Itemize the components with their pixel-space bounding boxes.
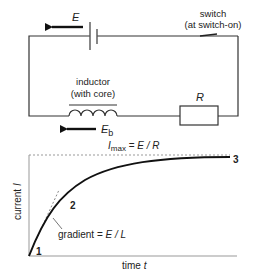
inductor-label-line2: (with core) xyxy=(71,88,115,99)
switch-label-line1: switch xyxy=(200,8,226,19)
diagram-canvas: E switch (at switch-on) inductor (with c… xyxy=(0,0,265,276)
point-3-label: 3 xyxy=(233,154,239,165)
y-axis-label: current I xyxy=(12,183,23,220)
gradient-leader xyxy=(53,218,62,229)
inductor-label-line1: inductor xyxy=(76,76,110,87)
point-2-label: 2 xyxy=(70,200,76,211)
current-graph: Imax = E / R gradient = E / L 1 2 3 time… xyxy=(12,140,239,271)
gradient-label: gradient = E / L xyxy=(58,229,126,240)
circuit: E switch (at switch-on) inductor (with c… xyxy=(29,8,242,138)
imax-label: Imax = E / R xyxy=(108,140,160,153)
battery-icon xyxy=(90,22,97,50)
circuit-wire-right xyxy=(218,36,238,116)
resistor-icon xyxy=(180,106,218,125)
back-emf-label: Eb xyxy=(101,123,113,138)
inductor-icon xyxy=(69,105,117,116)
switch-label-line2: (at switch-on) xyxy=(184,19,241,30)
current-curve xyxy=(29,157,230,256)
emf-label: E xyxy=(72,11,80,23)
resistor-label: R xyxy=(196,91,204,103)
x-axis-label: time t xyxy=(122,260,148,271)
point-1-label: 1 xyxy=(36,246,42,257)
